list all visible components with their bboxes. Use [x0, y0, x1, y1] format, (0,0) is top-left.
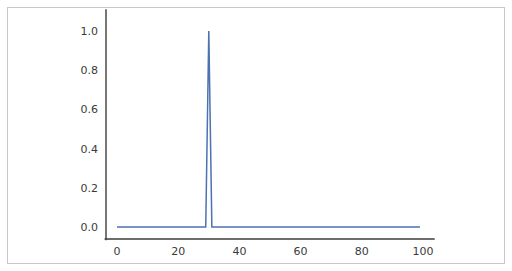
y-tick-label: 0.8: [81, 64, 99, 77]
y-tick-label: 0.6: [81, 103, 99, 116]
x-tick-label: 0: [114, 245, 121, 258]
x-tick-label: 60: [294, 245, 308, 258]
y-axis-tick-labels: 0.00.20.40.60.81.0: [81, 25, 99, 234]
x-tick-label: 80: [355, 245, 369, 258]
y-tick-label: 1.0: [81, 25, 99, 38]
impulse-chart: 020406080100 0.00.20.40.60.81.0: [0, 0, 512, 271]
y-tick-label: 0.4: [81, 143, 99, 156]
data-line-impulse: [117, 31, 420, 227]
x-tick-label: 20: [171, 245, 185, 258]
y-tick-label: 0.2: [81, 182, 99, 195]
y-tick-label: 0.0: [81, 221, 99, 234]
x-axis-tick-labels: 020406080100: [114, 245, 434, 258]
figure-container: 020406080100 0.00.20.40.60.81.0: [0, 0, 512, 271]
x-tick-label: 40: [232, 245, 246, 258]
x-tick-label: 100: [413, 245, 434, 258]
